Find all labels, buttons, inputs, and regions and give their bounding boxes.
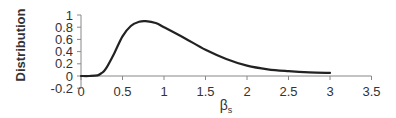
x-tick-label: 0.5 <box>113 84 131 99</box>
x-tick-label: 2.5 <box>279 84 297 99</box>
x-axis-title-subscript: s <box>228 105 233 115</box>
x-axis-title-base: β <box>220 97 228 113</box>
x-tick-label: 1 <box>160 84 167 99</box>
x-axis-title: βs <box>220 97 233 115</box>
y-axis-ticks: -0.200.20.40.60.81 <box>51 8 81 96</box>
y-axis-title: Distribution <box>13 8 28 81</box>
distribution-curve <box>81 21 330 76</box>
x-tick-label: 1.5 <box>196 84 214 99</box>
distribution-chart: -0.200.20.40.60.81 00.511.522.533.5 Dist… <box>0 0 396 118</box>
x-tick-label: 2 <box>243 84 250 99</box>
x-tick-label: 3 <box>326 84 333 99</box>
y-tick-label: 1 <box>66 8 73 23</box>
x-tick-label: 3.5 <box>362 84 380 99</box>
x-axis-ticks: 00.511.522.533.5 <box>77 76 380 99</box>
